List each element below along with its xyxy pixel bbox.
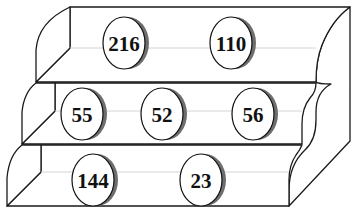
disc-label: 216 (108, 32, 140, 56)
disc-label: 55 (72, 103, 93, 127)
disc-label: 56 (243, 103, 264, 127)
disc-label: 52 (152, 103, 173, 127)
stepped-shelf-diagram: 21611055525614423 (0, 0, 356, 213)
disc-bottom-1: 23 (180, 154, 226, 206)
bottom-tier-back (7, 145, 302, 206)
disc-label: 144 (77, 169, 109, 193)
disc-middle-1: 52 (141, 88, 187, 140)
disc-label: 23 (191, 169, 212, 193)
top-tier-back (36, 7, 350, 82)
disc-top-1: 110 (210, 17, 256, 69)
disc-label: 110 (216, 32, 246, 56)
shelf-drawing: 21611055525614423 (0, 0, 356, 213)
disc-middle-2: 56 (232, 88, 278, 140)
disc-middle-0: 55 (61, 88, 107, 140)
disc-bottom-0: 144 (72, 154, 118, 206)
disc-top-0: 216 (103, 17, 149, 69)
